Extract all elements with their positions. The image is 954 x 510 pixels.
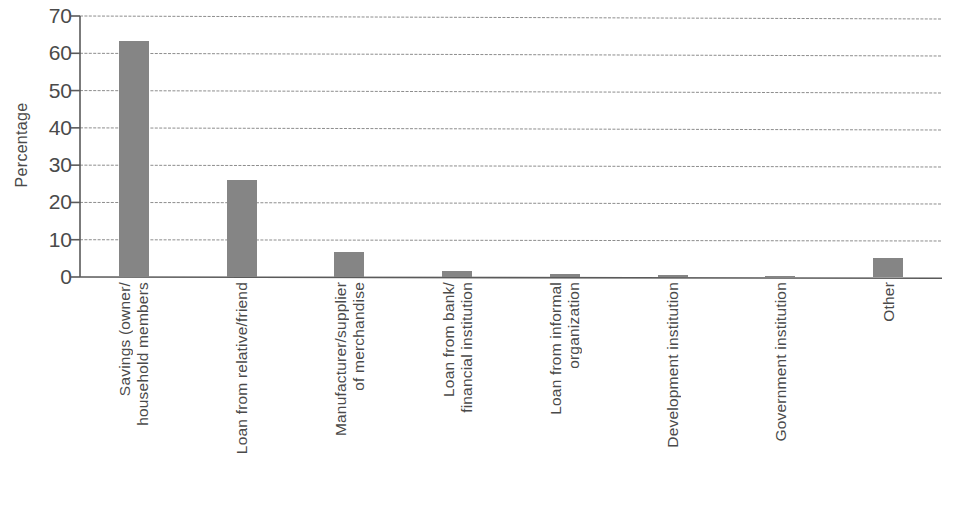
plot-area [80,16,942,277]
x-tick-label: Loan from informalorganization [542,282,588,502]
y-tick-label: 0 [28,266,72,287]
x-tick-label-line: Loan from bank/ [440,282,457,397]
x-tick-label: Manufacturer/supplierof merchandise [326,282,372,502]
bar [119,41,149,277]
x-tick-label-line: of merchandise [350,282,367,391]
x-axis-line [80,277,942,278]
gridline [80,16,942,19]
gridline [80,53,942,56]
y-axis-tick-labels: 010203040506070 [18,0,72,290]
bar [442,271,472,277]
bar [765,276,795,278]
x-tick-label: Other [865,282,911,502]
y-tick-label: 30 [28,154,72,175]
gridline [80,128,942,130]
axes-and-gridlines [80,16,942,277]
x-tick-label: Government institution [757,282,803,502]
x-tick-label-line: Savings (owner/ [116,282,133,396]
bar [227,180,257,277]
bar [550,274,580,277]
gridline [80,240,942,241]
bar [658,275,688,277]
x-tick-label: Savings (owner/household members [111,282,157,502]
x-axis-tick-labels: Savings (owner/household membersLoan fro… [80,282,942,507]
bar-chart: Percentage 010203040506070 Savings (owne… [0,0,954,510]
x-tick-label: Development institution [650,282,696,502]
x-tick-label-line: Loan from informal [547,282,564,415]
x-tick-label-line: Manufacturer/supplier [332,282,349,436]
y-tick-label: 70 [28,5,72,26]
x-tick-label-line: organization [565,282,582,369]
y-tick-label: 60 [28,42,72,63]
x-tick-label-line: financial institution [458,282,475,413]
gridline [80,165,942,167]
gridline [80,91,942,93]
y-tick-label: 40 [28,117,72,138]
gridline [80,202,942,204]
y-tick-label: 10 [28,229,72,250]
x-tick-label: Loan from bank/financial institution [434,282,480,502]
x-tick-label-line: Government institution [772,282,789,441]
x-tick-label-line: Loan from relative/friend [233,282,250,454]
y-tick-label: 50 [28,80,72,101]
bar [873,258,903,277]
x-tick-label-line: Other [880,282,897,322]
bar [334,252,364,277]
x-tick-label-line: household members [134,282,151,426]
x-tick-label-line: Development institution [664,282,681,448]
y-tick-label: 20 [28,191,72,212]
x-tick-label: Loan from relative/friend [219,282,265,502]
